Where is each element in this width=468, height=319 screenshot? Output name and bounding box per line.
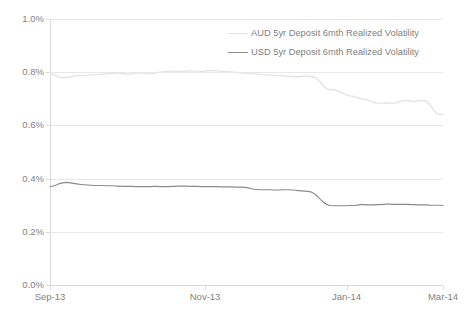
y-tick-label: 0.6% xyxy=(0,120,44,130)
chart-legend: AUD 5yr Deposit 6mth Realized Volatility… xyxy=(228,24,463,62)
x-tick-mark xyxy=(347,286,348,290)
y-tick-mark xyxy=(46,125,50,126)
gridline-y xyxy=(50,232,443,233)
y-tick-mark xyxy=(46,179,50,180)
x-tick-mark xyxy=(443,286,444,290)
gridline-y xyxy=(50,125,443,126)
x-tick-label: Sep-13 xyxy=(20,291,80,302)
legend-swatch-usd xyxy=(228,52,248,53)
x-tick-label: Jan-14 xyxy=(317,291,377,302)
x-tick-label: Nov-13 xyxy=(175,291,235,302)
gridline-y xyxy=(50,19,443,20)
y-axis-title: Realized Volatility xyxy=(0,0,16,319)
y-tick-label: 1.0% xyxy=(0,14,44,24)
y-tick-label: 0.4% xyxy=(0,174,44,184)
gridline-y xyxy=(50,179,443,180)
y-tick-mark xyxy=(46,232,50,233)
series-line-usd xyxy=(50,182,443,205)
gridline-y xyxy=(50,285,443,286)
legend-label-usd: USD 5yr Deposit 6mth Realized Volatility xyxy=(251,47,419,58)
gridline-y xyxy=(50,72,443,73)
x-tick-label: Mar-14 xyxy=(413,291,468,302)
y-tick-mark xyxy=(46,72,50,73)
y-tick-label: 0.0% xyxy=(0,280,44,290)
y-tick-label: 0.8% xyxy=(0,67,44,77)
x-tick-mark xyxy=(50,286,51,290)
series-line-aud xyxy=(50,71,443,115)
y-tick-label: 0.2% xyxy=(0,227,44,237)
legend-label-aud: AUD 5yr Deposit 6mth Realized Volatility xyxy=(251,28,419,39)
x-tick-mark xyxy=(205,286,206,290)
legend-item-aud[interactable]: AUD 5yr Deposit 6mth Realized Volatility xyxy=(228,24,463,43)
legend-swatch-aud xyxy=(228,33,248,34)
legend-item-usd[interactable]: USD 5yr Deposit 6mth Realized Volatility xyxy=(228,43,463,62)
chart-container: Realized Volatility 1.0%0.8%0.6%0.4%0.2%… xyxy=(0,0,468,319)
y-tick-mark xyxy=(46,285,50,286)
y-tick-mark xyxy=(46,19,50,20)
